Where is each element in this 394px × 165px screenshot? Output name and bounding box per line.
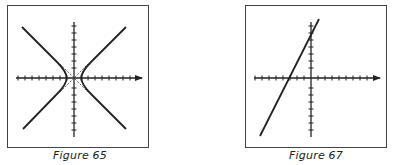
figure-67-plot [246,6,387,148]
figure-65-plot [8,6,149,148]
figures-canvas [0,0,394,165]
figure-65-frame [8,6,149,148]
figure-67-caption: Figure 67 [289,149,343,162]
figure-65-caption: Figure 65 [53,149,107,162]
